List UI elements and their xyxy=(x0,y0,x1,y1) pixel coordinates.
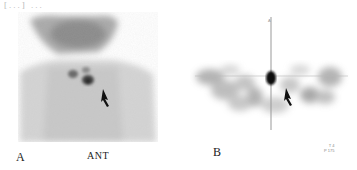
panel-a-caption: ANT xyxy=(87,150,109,161)
spect-scan-image: A xyxy=(190,15,350,130)
panel-a-planar-image xyxy=(18,12,158,142)
panel-b-spect-image: A xyxy=(190,15,350,130)
planar-scan-image xyxy=(18,12,158,142)
panel-b-label: B xyxy=(213,145,221,160)
crosshair-marker: A xyxy=(268,18,271,23)
header-fragment: [...] ... xyxy=(4,0,44,10)
overlay-line-2: P 175 xyxy=(324,148,334,153)
spect-overlay-text: T 4 P 175 xyxy=(324,143,334,153)
panel-a-label: A xyxy=(16,150,25,165)
